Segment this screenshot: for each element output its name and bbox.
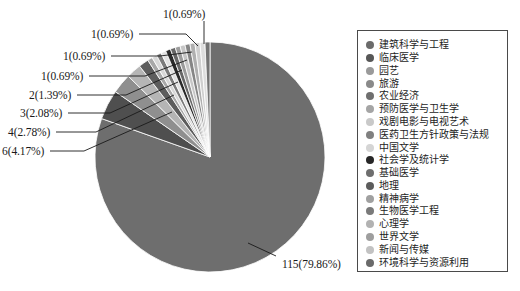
legend-swatch-icon xyxy=(366,246,374,254)
pie-chart-figure: 115(79.86%)1(0.69%)1(0.69%)1(0.69%)1(0.6… xyxy=(0,0,520,291)
pie-data-label: 1(0.69%) xyxy=(63,50,105,62)
legend-item[interactable]: 基础医学 xyxy=(366,167,507,180)
legend-item[interactable]: 医药卫生方针政策与法规 xyxy=(366,128,507,141)
legend: 建筑科学与工程临床医学园艺旅游农业经济预防医学与卫生学戏剧电影与电视艺术医药卫生… xyxy=(357,30,508,272)
pie-data-label: 115(79.86%) xyxy=(282,258,341,270)
pie-data-label: 2(1.39%) xyxy=(29,89,71,101)
legend-item[interactable]: 临床医学 xyxy=(366,52,507,65)
legend-item[interactable]: 心理学 xyxy=(366,218,507,231)
legend-item[interactable]: 社会学及统计学 xyxy=(366,154,507,167)
legend-swatch-icon xyxy=(366,182,374,190)
legend-swatch-icon xyxy=(366,220,374,228)
pie-data-label: 4(2.78%) xyxy=(8,126,50,138)
legend-item[interactable]: 旅游 xyxy=(366,77,507,90)
legend-item[interactable]: 预防医学与卫生学 xyxy=(366,103,507,116)
legend-item[interactable]: 新闻与传媒 xyxy=(366,244,507,257)
legend-item-label: 生物医学工程 xyxy=(379,205,439,217)
legend-swatch-icon xyxy=(366,144,374,152)
legend-swatch-icon xyxy=(366,105,374,113)
pie-slices-group xyxy=(95,42,325,272)
legend-item-label: 戏剧电影与电视艺术 xyxy=(379,116,469,128)
legend-swatch-icon xyxy=(366,92,374,100)
legend-swatch-icon xyxy=(366,156,374,164)
legend-item-label: 新闻与传媒 xyxy=(379,244,429,256)
pie-plot-area: 115(79.86%)1(0.69%)1(0.69%)1(0.69%)1(0.6… xyxy=(0,0,352,291)
legend-item[interactable]: 农业经济 xyxy=(366,90,507,103)
pie-data-label: 1(0.69%) xyxy=(41,70,83,82)
legend-item[interactable]: 世界文学 xyxy=(366,231,507,244)
legend-swatch-icon xyxy=(366,67,374,75)
legend-item[interactable]: 园艺 xyxy=(366,65,507,78)
legend-item[interactable]: 戏剧电影与电视艺术 xyxy=(366,116,507,129)
legend-item-label: 精神病学 xyxy=(379,193,419,205)
legend-swatch-icon xyxy=(366,54,374,62)
legend-swatch-icon xyxy=(366,207,374,215)
legend-swatch-icon xyxy=(366,233,374,241)
legend-item[interactable]: 生物医学工程 xyxy=(366,205,507,218)
legend-item-label: 医药卫生方针政策与法规 xyxy=(379,129,489,141)
legend-item-label: 社会学及统计学 xyxy=(379,154,449,166)
pie-data-label: 6(4.17%) xyxy=(2,145,44,157)
legend-item-label: 中国文学 xyxy=(379,142,419,154)
legend-item-label: 世界文学 xyxy=(379,231,419,243)
legend-item-label: 基础医学 xyxy=(379,167,419,179)
legend-item[interactable]: 环境科学与资源利用 xyxy=(366,256,507,269)
legend-swatch-icon xyxy=(366,41,374,49)
legend-item-label: 旅游 xyxy=(379,78,399,90)
legend-item-label: 农业经济 xyxy=(379,90,419,102)
legend-swatch-icon xyxy=(366,259,374,267)
legend-item[interactable]: 中国文学 xyxy=(366,141,507,154)
legend-item-label: 地理 xyxy=(379,180,399,192)
pie-data-label: 3(2.08%) xyxy=(20,107,62,119)
legend-swatch-icon xyxy=(366,131,374,139)
pie-data-label: 1(0.69%) xyxy=(163,8,205,20)
legend-swatch-icon xyxy=(366,169,374,177)
legend-swatch-icon xyxy=(366,118,374,126)
legend-swatch-icon xyxy=(366,80,374,88)
legend-item-label: 预防医学与卫生学 xyxy=(379,103,459,115)
legend-item-label: 建筑科学与工程 xyxy=(379,39,449,51)
legend-list: 建筑科学与工程临床医学园艺旅游农业经济预防医学与卫生学戏剧电影与电视艺术医药卫生… xyxy=(366,39,507,269)
legend-item-label: 临床医学 xyxy=(379,52,419,64)
legend-item[interactable]: 精神病学 xyxy=(366,192,507,205)
legend-swatch-icon xyxy=(366,195,374,203)
legend-item-label: 园艺 xyxy=(379,65,399,77)
legend-item-label: 心理学 xyxy=(379,218,409,230)
legend-item[interactable]: 地理 xyxy=(366,180,507,193)
pie-data-label: 1(0.69%) xyxy=(91,28,133,40)
pie-svg xyxy=(0,0,352,291)
legend-item-label: 环境科学与资源利用 xyxy=(379,257,469,269)
legend-item[interactable]: 建筑科学与工程 xyxy=(366,39,507,52)
